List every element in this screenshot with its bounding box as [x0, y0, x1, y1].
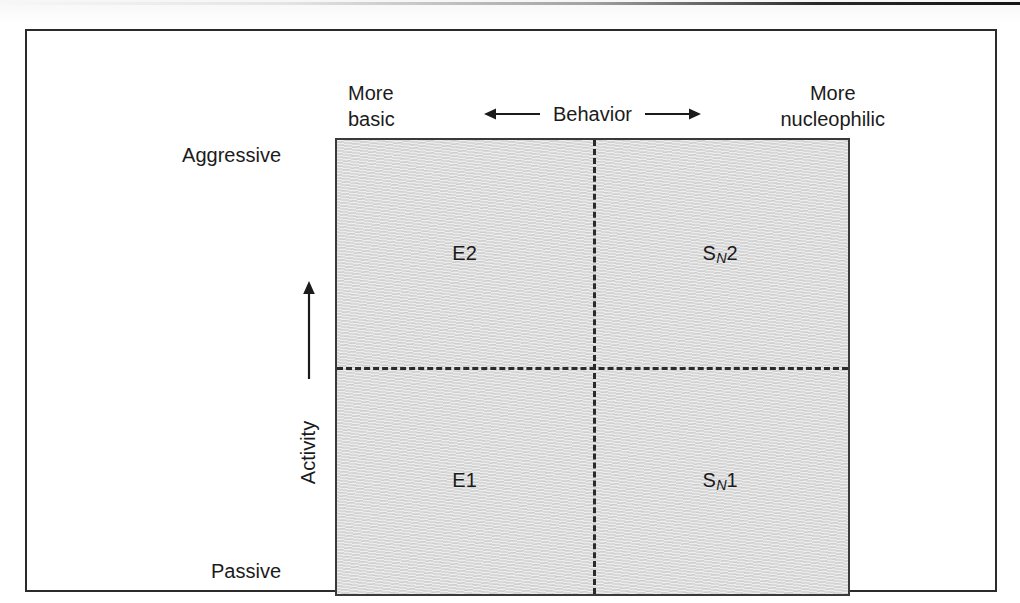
- quadrant-label-top-right-tail: 2: [727, 241, 738, 263]
- quadrant-label-bottom-left-base: E: [452, 468, 466, 490]
- quadrant-label-bottom-left: E1: [452, 468, 477, 492]
- horizontal-divider-dashed: [337, 367, 848, 370]
- x-axis-label-row: Behavior: [482, 103, 703, 126]
- quadrant-label-top-left: E2: [452, 241, 477, 265]
- up-arrow-icon: [300, 279, 318, 381]
- scan-edge-artifact: [0, 2, 1020, 5]
- x-axis-label: Behavior: [553, 103, 632, 126]
- x-axis: Behavior: [335, 99, 850, 129]
- quadrant-label-bottom-left-tail: 1: [466, 468, 477, 490]
- quadrant-label-top-left-tail: 2: [466, 241, 477, 263]
- y-axis-label-wrap: Activity: [277, 387, 340, 517]
- quadrant-label-top-left-base: E: [452, 241, 466, 263]
- scanned-page: More basic More nucleophilic Behavior: [0, 0, 1020, 603]
- quadrant-plot-area: E2 SN2 E1 SN1: [335, 138, 850, 596]
- figure-frame: More basic More nucleophilic Behavior: [25, 29, 997, 592]
- quadrant-label-top-right-sub: N: [716, 250, 726, 266]
- quadrant-label-bottom-right: SN1: [703, 468, 738, 492]
- quadrant-label-bottom-right-sub: N: [716, 477, 726, 493]
- y-axis-high-end-label: Aggressive: [182, 144, 281, 167]
- y-axis-low-end-label: Passive: [211, 560, 281, 583]
- right-arrow-icon: [643, 106, 703, 122]
- y-axis-label: Activity: [298, 420, 321, 483]
- quadrant-label-top-right-base: S: [703, 241, 717, 263]
- left-arrow-icon: [482, 106, 542, 122]
- quadrant-label-bottom-right-base: S: [703, 468, 717, 490]
- quadrant-label-bottom-right-tail: 1: [727, 468, 738, 490]
- y-axis: Activity: [289, 279, 329, 529]
- quadrant-label-top-right: SN2: [703, 241, 738, 265]
